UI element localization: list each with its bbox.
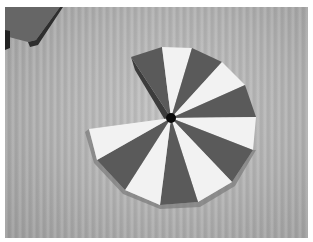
center-hub (166, 113, 176, 123)
wooden-board (5, 7, 60, 42)
disc-illustration (5, 7, 308, 238)
board-shadow (5, 30, 10, 50)
photo (5, 7, 308, 238)
